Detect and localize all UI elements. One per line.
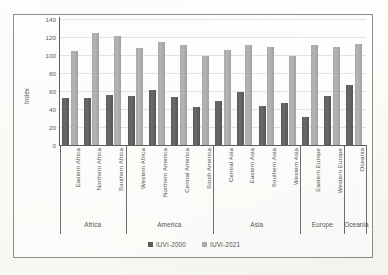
bar-group	[60, 19, 82, 145]
bar-group	[213, 19, 235, 145]
bar-group	[126, 19, 148, 145]
bar-group	[344, 19, 366, 145]
y-axis-tick-labels: 020406080100120140	[30, 19, 56, 145]
legend-label: IUVI-2021	[210, 241, 240, 248]
y-axis-tick: 80	[30, 70, 56, 77]
legend-swatch-icon	[202, 242, 207, 247]
bar-iuvi-2000[interactable]	[193, 107, 200, 145]
legend-item[interactable]: IUVI-2000	[148, 241, 186, 248]
group-label: Europe	[300, 221, 344, 228]
y-axis-tick: 120	[30, 34, 56, 41]
bar-group	[169, 19, 191, 145]
bar-iuvi-2000[interactable]	[171, 97, 178, 145]
y-axis-tick: 20	[30, 124, 56, 131]
bar-group	[279, 19, 301, 145]
y-axis-tick: 60	[30, 88, 56, 95]
bar-iuvi-2021[interactable]	[355, 44, 362, 145]
bar-iuvi-2021[interactable]	[311, 45, 318, 145]
legend-item[interactable]: IUVI-2021	[202, 241, 240, 248]
legend-swatch-icon	[148, 242, 153, 247]
bar-iuvi-2021[interactable]	[71, 51, 78, 145]
bar-group	[82, 19, 104, 145]
bar-iuvi-2000[interactable]	[149, 90, 156, 145]
y-axis-tick: 40	[30, 106, 56, 113]
y-axis-line	[59, 17, 60, 146]
y-axis-tick: 140	[30, 16, 56, 23]
bar-iuvi-2000[interactable]	[259, 106, 266, 145]
bar-iuvi-2021[interactable]	[289, 56, 296, 145]
bar-iuvi-2000[interactable]	[237, 92, 244, 145]
bar-group	[104, 19, 126, 145]
bar-iuvi-2021[interactable]	[180, 45, 187, 145]
bar-iuvi-2000[interactable]	[281, 103, 288, 145]
bar-group	[191, 19, 213, 145]
bar-iuvi-2000[interactable]	[62, 98, 69, 145]
bar-iuvi-2021[interactable]	[136, 48, 143, 145]
bar-iuvi-2021[interactable]	[245, 45, 252, 145]
bar-iuvi-2021[interactable]	[114, 36, 121, 145]
bar-iuvi-2000[interactable]	[106, 95, 113, 145]
plot-area	[60, 19, 366, 145]
scanned-page: Index 020406080100120140 Eastern AfricaN…	[0, 0, 388, 275]
bar-group	[322, 19, 344, 145]
bar-group	[235, 19, 257, 145]
y-axis-tick: 100	[30, 52, 56, 59]
bar-iuvi-2000[interactable]	[346, 85, 353, 145]
bar-group	[147, 19, 169, 145]
bar-iuvi-2021[interactable]	[224, 50, 231, 145]
bar-iuvi-2000[interactable]	[324, 96, 331, 146]
group-label: Oceania	[344, 221, 366, 228]
bar-iuvi-2000[interactable]	[215, 101, 222, 145]
bar-iuvi-2000[interactable]	[84, 98, 91, 145]
bar-iuvi-2021[interactable]	[333, 47, 340, 145]
bar-series-container	[60, 19, 366, 145]
bar-group	[300, 19, 322, 145]
group-label: Asia	[213, 221, 300, 228]
bar-iuvi-2021[interactable]	[158, 42, 165, 146]
bar-iuvi-2021[interactable]	[92, 33, 99, 146]
legend-label: IUVI-2000	[156, 241, 186, 248]
chart-frame: Index 020406080100120140 Eastern AfricaN…	[13, 14, 373, 258]
bar-iuvi-2000[interactable]	[302, 117, 309, 145]
y-axis-tick: 0	[30, 142, 56, 149]
bar-iuvi-2000[interactable]	[128, 96, 135, 145]
bar-iuvi-2021[interactable]	[267, 47, 274, 145]
chart-plot-wrapper: Index 020406080100120140 Eastern AfricaN…	[14, 15, 374, 259]
chart-legend: IUVI-2000IUVI-2021	[14, 237, 374, 251]
bar-iuvi-2021[interactable]	[202, 56, 209, 145]
bar-group	[257, 19, 279, 145]
group-label: America	[126, 221, 213, 228]
group-axis-labels: AfricaAmericaAsiaEuropeOceania	[60, 218, 366, 234]
group-label: Africa	[60, 221, 126, 228]
